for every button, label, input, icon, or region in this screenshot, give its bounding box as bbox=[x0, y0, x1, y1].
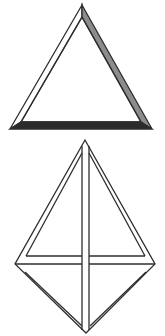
diamond-upper-right-inner-line bbox=[89, 153, 145, 256]
figure-canvas bbox=[0, 0, 165, 336]
diamond-frame bbox=[15, 140, 155, 333]
diamond-lower-right-inner-line bbox=[90, 272, 146, 326]
triangle-inner-outline bbox=[21, 17, 141, 122]
triangle-right-bevel bbox=[82, 5, 152, 129]
triangle-bottom-bevel bbox=[10, 122, 152, 129]
triangle-frame bbox=[10, 5, 152, 129]
diamond-lower-left-inner-line bbox=[25, 272, 82, 326]
diamond-upper-left-inner-line bbox=[26, 153, 82, 256]
triangle-left-bevel bbox=[10, 5, 82, 129]
